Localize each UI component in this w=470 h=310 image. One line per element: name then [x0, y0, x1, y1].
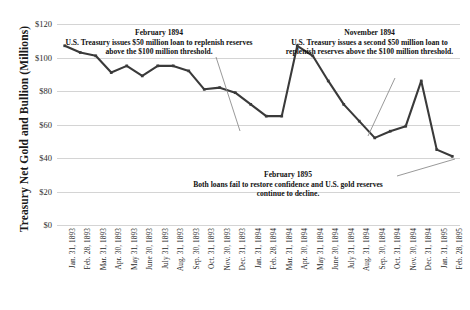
annotation-leader-lines	[0, 0, 470, 310]
leader-line-november-1894	[368, 78, 395, 136]
leader-line-february-1895	[397, 159, 455, 176]
chart-container: Treasury Net Gold and Bullion (Millions)…	[0, 0, 470, 310]
leader-line-february-1894	[216, 57, 240, 131]
